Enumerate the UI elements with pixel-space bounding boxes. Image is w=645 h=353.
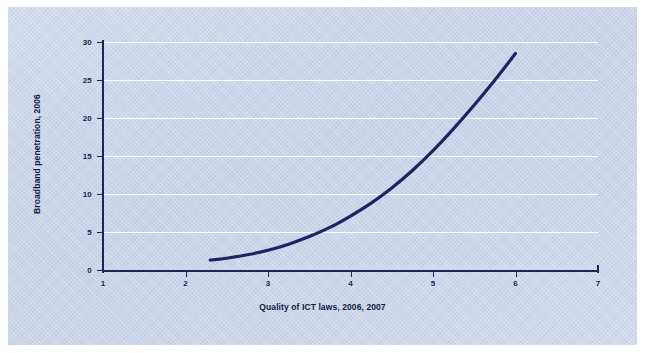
x-axis-tick-label: 3 bbox=[266, 279, 271, 289]
x-axis-title: Quality of ICT laws, 2006, 2007 bbox=[8, 302, 637, 312]
y-axis-tick bbox=[97, 156, 102, 157]
x-axis-tick bbox=[597, 265, 599, 273]
chart-figure: 1234567 051015202530 Quality of ICT laws… bbox=[0, 0, 645, 353]
x-axis-tick bbox=[268, 272, 269, 277]
chart-panel: 1234567 051015202530 Quality of ICT laws… bbox=[8, 7, 637, 345]
y-axis-tick-label: 15 bbox=[83, 152, 92, 161]
x-axis-tick bbox=[186, 272, 187, 277]
y-axis-tick bbox=[97, 194, 102, 195]
y-axis-tick bbox=[97, 80, 102, 81]
y-axis-tick bbox=[97, 118, 102, 119]
x-axis-tick-label: 5 bbox=[431, 279, 436, 289]
x-axis-tick-label: 7 bbox=[596, 279, 601, 289]
trend-curve bbox=[103, 42, 598, 270]
y-axis-tick bbox=[97, 232, 102, 233]
x-axis-tick bbox=[351, 272, 352, 277]
y-axis-title: Broadband penetration, 2006 bbox=[32, 64, 42, 244]
x-axis-tick-label: 4 bbox=[348, 279, 353, 289]
y-axis-tick-label: 30 bbox=[83, 38, 92, 47]
x-axis-tick bbox=[102, 265, 104, 273]
x-axis-tick-label: 6 bbox=[513, 279, 518, 289]
y-axis-tick-label: 5 bbox=[87, 228, 92, 237]
y-axis-line bbox=[102, 40, 104, 272]
y-axis-tick-label: 10 bbox=[83, 190, 92, 199]
x-axis-tick bbox=[516, 272, 517, 277]
y-axis-tick-label: 20 bbox=[83, 114, 92, 123]
x-axis-tick-label: 2 bbox=[183, 279, 188, 289]
y-axis-tick-label: 0 bbox=[87, 266, 92, 275]
y-axis-tick bbox=[97, 42, 102, 43]
plot-area bbox=[103, 42, 598, 270]
y-axis-tick-label: 25 bbox=[83, 76, 92, 85]
x-axis-tick bbox=[433, 272, 434, 277]
x-axis-tick-label: 1 bbox=[101, 279, 106, 289]
